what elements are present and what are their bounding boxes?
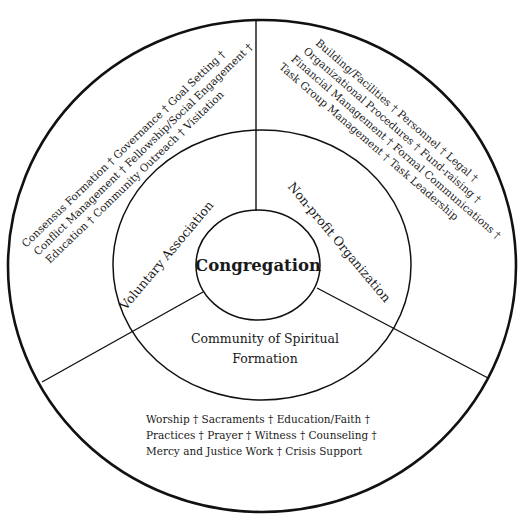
congregation-diagram: Congregation Voluntary Association Non-p…	[0, 0, 527, 520]
voluntary-line-3: Education † Community Outreach † Visitat…	[43, 88, 226, 265]
nonprofit-line-2: Organizational Procedures † Fund-raising…	[301, 44, 483, 205]
spiritual-line-1: Worship † Sacraments † Education/Faith †	[146, 413, 370, 425]
label-spiritual-formation-line1: Community of Spiritual	[191, 331, 339, 346]
center-label: Congregation	[195, 256, 321, 275]
spiritual-line-2: Practices † Prayer † Witness † Counselin…	[146, 429, 377, 441]
spiritual-activities: Worship † Sacraments † Education/Faith †…	[146, 413, 377, 457]
voluntary-activities: Consensus Formation † Governance † Goal …	[19, 31, 264, 270]
label-nonprofit-organization: Non-profit Organization	[285, 179, 394, 305]
label-spiritual-formation-line2: Formation	[232, 351, 297, 366]
spiritual-line-3: Mercy and Justice Work † Crisis Support	[146, 445, 363, 457]
divider-right	[317, 288, 488, 378]
voluntary-line-2: Conflict Management † Fellowship/Social …	[31, 41, 255, 258]
